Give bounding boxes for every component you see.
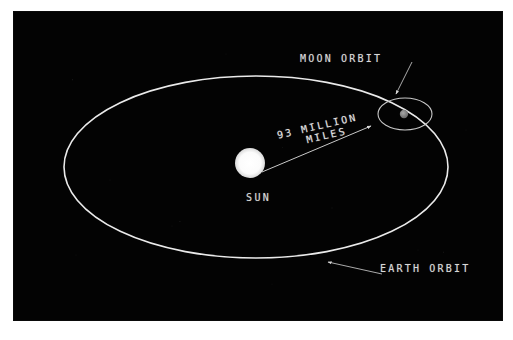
sun-body [235, 148, 265, 178]
figure-page: MOON ORBIT EARTH ORBIT SUN 93 MILLION MI… [0, 0, 513, 340]
earth-body [400, 110, 408, 118]
earth-orbit-label: EARTH ORBIT [380, 263, 470, 274]
moon-orbit-label: MOON ORBIT [300, 53, 382, 64]
photograph-frame: MOON ORBIT EARTH ORBIT SUN 93 MILLION MI… [14, 12, 502, 320]
sun-label: SUN [246, 192, 271, 203]
